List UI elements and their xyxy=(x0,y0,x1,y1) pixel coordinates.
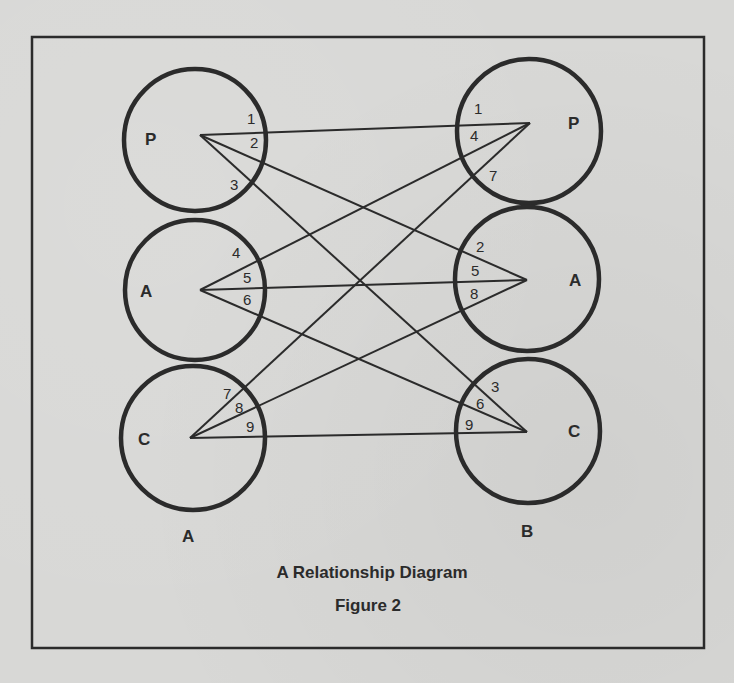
relationship-diagram: P A C P A C 1 2 3 4 5 6 7 8 9 1 4 7 2 5 … xyxy=(0,0,734,683)
right-node-label-c: C xyxy=(568,422,580,441)
left-a-number-5: 5 xyxy=(243,269,251,286)
connection-9 xyxy=(190,432,527,438)
right-node-label-a: A xyxy=(569,271,581,290)
right-c-number-9: 9 xyxy=(465,416,473,433)
figure-page: P A C P A C 1 2 3 4 5 6 7 8 9 1 4 7 2 5 … xyxy=(0,0,734,683)
right-a-number-2: 2 xyxy=(476,238,484,255)
connection-lines xyxy=(190,123,530,438)
left-p-number-1: 1 xyxy=(247,110,255,127)
right-a-number-5: 5 xyxy=(471,262,479,279)
left-node-label-c: C xyxy=(138,430,150,449)
left-p-number-2: 2 xyxy=(250,134,258,151)
right-c-number-6: 6 xyxy=(476,395,484,412)
right-p-number-1: 1 xyxy=(474,100,482,117)
left-c-number-7: 7 xyxy=(223,385,231,402)
figure-title: A Relationship Diagram xyxy=(276,563,467,582)
left-node-label-a: A xyxy=(140,282,152,301)
right-node-label-p: P xyxy=(568,114,579,133)
group-label-left: A xyxy=(182,527,194,546)
left-p-number-3: 3 xyxy=(230,176,238,193)
left-c-number-9: 9 xyxy=(246,418,254,435)
group-label-right: B xyxy=(521,522,533,541)
left-a-number-6: 6 xyxy=(243,291,251,308)
left-c-number-8: 8 xyxy=(235,399,243,416)
right-node-circle-p xyxy=(457,59,601,203)
left-a-number-4: 4 xyxy=(232,244,240,261)
right-a-number-8: 8 xyxy=(470,285,478,302)
figure-caption: Figure 2 xyxy=(335,596,401,615)
right-p-number-4: 4 xyxy=(470,127,478,144)
left-node-label-p: P xyxy=(145,130,156,149)
right-c-number-3: 3 xyxy=(491,378,499,395)
right-p-number-7: 7 xyxy=(489,167,497,184)
